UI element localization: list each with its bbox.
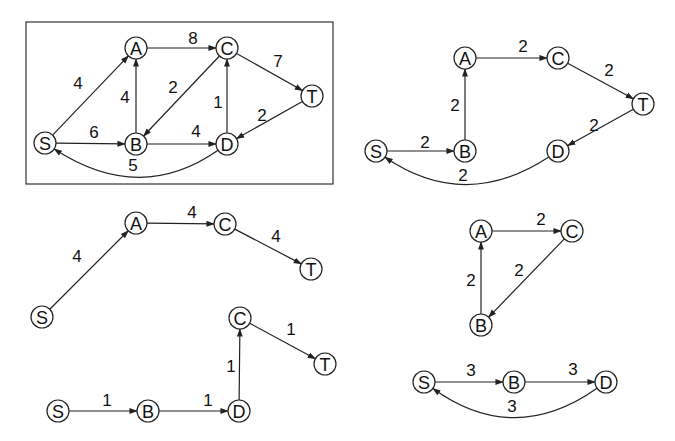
node-label: C bbox=[234, 309, 247, 329]
edge-c-to-t bbox=[250, 323, 316, 359]
edge-c-to-t bbox=[237, 53, 303, 90]
node-label: D bbox=[600, 373, 613, 393]
node-label: C bbox=[221, 39, 234, 59]
node-label: D bbox=[221, 135, 234, 155]
flow-decomposition-figure: 4874212645SABCDT222222SBACTD444SACT1111S… bbox=[0, 0, 675, 441]
edge-c-to-t bbox=[235, 229, 302, 264]
graph-path-flow-1: 1111SBDCT bbox=[47, 307, 336, 422]
graph-cycle-flow-3-sbd: 333SBD bbox=[413, 360, 617, 418]
edge-weight-label: 2 bbox=[450, 96, 459, 115]
edge-weight-label: 1 bbox=[226, 357, 235, 376]
edge-d-to-c bbox=[239, 329, 240, 400]
edge-weight-label: 7 bbox=[273, 52, 282, 71]
node-t: T bbox=[301, 85, 323, 107]
node-s: S bbox=[34, 132, 56, 154]
edge-t-to-d bbox=[568, 109, 634, 145]
edge-weight-label: 1 bbox=[102, 391, 111, 410]
node-label: S bbox=[370, 142, 382, 162]
edge-c-to-b bbox=[489, 239, 565, 317]
edge-s-to-b bbox=[56, 143, 125, 144]
node-c: C bbox=[229, 307, 251, 329]
edge-weight-label: 2 bbox=[518, 37, 527, 56]
node-s: S bbox=[31, 306, 53, 328]
node-label: A bbox=[130, 39, 142, 59]
edge-weight-label: 6 bbox=[89, 123, 98, 142]
node-label: B bbox=[459, 142, 471, 162]
edge-weight-label: 3 bbox=[507, 397, 516, 416]
edge-weight-label: 2 bbox=[536, 210, 545, 229]
node-label: T bbox=[306, 260, 317, 280]
edge-weight-label: 2 bbox=[604, 61, 613, 80]
node-d: D bbox=[228, 400, 250, 422]
node-d: D bbox=[547, 140, 569, 162]
edge-weight-label: 5 bbox=[128, 156, 137, 175]
graph-path-flow-4: 444SACT bbox=[31, 203, 322, 329]
graph-cycle-flow-2-abc: 222ACB bbox=[466, 210, 583, 337]
node-b: B bbox=[137, 400, 159, 422]
edge-weight-label: 3 bbox=[568, 360, 577, 379]
edge-weight-label: 2 bbox=[466, 271, 475, 290]
node-b: B bbox=[125, 133, 147, 155]
edge-c-to-t bbox=[568, 63, 634, 99]
edge-weight-label: 2 bbox=[420, 133, 429, 152]
node-a: A bbox=[470, 220, 492, 242]
node-label: D bbox=[552, 142, 565, 162]
edge-weight-label: 4 bbox=[73, 74, 82, 93]
node-t: T bbox=[300, 258, 322, 280]
edge-weight-label: 2 bbox=[168, 78, 177, 97]
edge-weight-label: 4 bbox=[187, 203, 196, 222]
node-c: C bbox=[216, 37, 238, 59]
edge-weight-label: 4 bbox=[120, 88, 129, 107]
node-b: B bbox=[503, 371, 525, 393]
edge-weight-label: 1 bbox=[286, 320, 295, 339]
node-label: S bbox=[418, 373, 430, 393]
node-label: A bbox=[459, 49, 471, 69]
edge-weight-label: 1 bbox=[203, 391, 212, 410]
edge-weight-label: 2 bbox=[458, 166, 467, 185]
edge-c-to-b bbox=[144, 56, 220, 136]
edge-weight-label: 4 bbox=[72, 247, 81, 266]
node-d: D bbox=[595, 371, 617, 393]
edge-weight-label: 4 bbox=[271, 227, 280, 246]
node-label: C bbox=[219, 215, 232, 235]
node-s: S bbox=[413, 371, 435, 393]
edge-weight-label: 2 bbox=[514, 261, 523, 280]
node-s: S bbox=[47, 400, 69, 422]
node-label: T bbox=[638, 95, 649, 115]
node-label: A bbox=[475, 222, 487, 242]
node-s: S bbox=[365, 140, 387, 162]
node-d: D bbox=[216, 133, 238, 155]
graphs-layer: 4874212645SABCDT222222SBACTD444SACT1111S… bbox=[26, 22, 654, 422]
node-b: B bbox=[470, 314, 492, 336]
node-label: B bbox=[475, 316, 487, 336]
node-t: T bbox=[314, 353, 336, 375]
graph-cycle-flow-2: 222222SBACTD bbox=[365, 37, 654, 185]
graph-original-network: 4874212645SABCDT bbox=[26, 22, 333, 184]
edge-weight-label: 2 bbox=[589, 116, 598, 135]
node-label: S bbox=[36, 308, 48, 328]
node-label: S bbox=[39, 134, 51, 154]
node-label: A bbox=[130, 214, 142, 234]
edge-s-to-a bbox=[50, 231, 128, 309]
node-label: S bbox=[52, 402, 64, 422]
node-c: C bbox=[214, 213, 236, 235]
edge-weight-label: 4 bbox=[191, 122, 200, 141]
node-a: A bbox=[125, 37, 147, 59]
edge-weight-label: 1 bbox=[213, 93, 222, 112]
node-t: T bbox=[632, 93, 654, 115]
node-label: B bbox=[142, 402, 154, 422]
node-label: T bbox=[307, 87, 318, 107]
node-label: D bbox=[233, 402, 246, 422]
edge-weight-label: 8 bbox=[188, 29, 197, 48]
node-c: C bbox=[547, 47, 569, 69]
node-a: A bbox=[125, 212, 147, 234]
edge-weight-label: 3 bbox=[466, 361, 475, 380]
node-label: B bbox=[508, 373, 520, 393]
edge-weight-label: 2 bbox=[257, 106, 266, 125]
node-a: A bbox=[454, 47, 476, 69]
node-c: C bbox=[561, 220, 583, 242]
edge-t-to-d bbox=[237, 101, 303, 138]
node-label: C bbox=[566, 222, 579, 242]
node-label: C bbox=[552, 49, 565, 69]
edge-a-to-c bbox=[147, 223, 214, 224]
